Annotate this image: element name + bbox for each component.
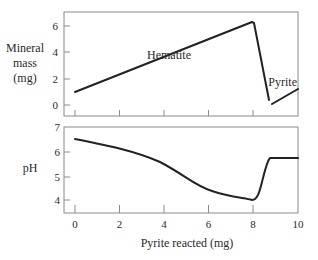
chart-figure: 6 4 2 0 Mineral mass (mg) Hematite Pyrit… (0, 0, 318, 260)
xtick-6: 6 (206, 218, 212, 230)
bottom-ylabel: pH (23, 161, 38, 175)
top-ytick-4: 4 (53, 46, 59, 58)
hematite-label: Hematite (147, 48, 191, 62)
pyrite-label: Pyrite (268, 75, 297, 89)
xtick-0: 0 (72, 218, 78, 230)
bottom-plot-frame (64, 127, 298, 213)
x-axis-label: Pyrite reacted (mg) (141, 236, 234, 250)
bottom-ytick-6: 6 (55, 146, 61, 158)
top-ytick-0: 0 (53, 99, 59, 111)
top-ytick-2: 2 (53, 73, 59, 85)
pyrite-curve (272, 89, 298, 104)
xtick-8: 8 (250, 218, 256, 230)
ph-curve (75, 139, 298, 200)
bottom-ytick-7: 7 (55, 121, 61, 133)
ph-panel: 7 6 5 4 pH 0 2 4 6 8 10 Pyrite reacted (… (23, 121, 304, 250)
top-ylabel-line3: (mg) (13, 71, 36, 85)
top-ylabel-line1: Mineral (6, 41, 45, 55)
bottom-ytick-4: 4 (55, 194, 61, 206)
top-ylabel-line2: mass (13, 56, 37, 70)
mineral-mass-panel: 6 4 2 0 Mineral mass (mg) Hematite Pyrit… (6, 12, 298, 116)
xtick-2: 2 (117, 218, 123, 230)
top-ytick-6: 6 (53, 20, 59, 32)
xtick-4: 4 (161, 218, 167, 230)
bottom-ytick-5: 5 (55, 171, 61, 183)
xtick-10: 10 (293, 218, 305, 230)
